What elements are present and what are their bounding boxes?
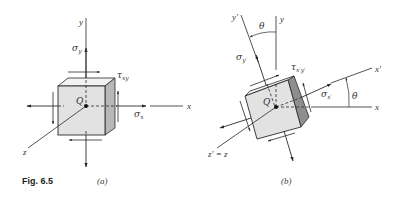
q-label-b: Q	[263, 96, 271, 107]
y-label-a: y	[78, 17, 83, 27]
x-label-a: x	[186, 101, 191, 111]
theta-label-top-b: θ	[259, 21, 265, 31]
panel-b: y′ y θ x′ x θ z′ = z Q σy′ τx′y′ σx′	[207, 12, 382, 161]
point-q-a	[84, 104, 88, 108]
figure-label: Fig. 6.5	[22, 176, 53, 186]
figure-canvas: y x z Q σy τxy σx	[0, 0, 398, 209]
sigma-y-label-a: σy	[72, 43, 82, 55]
tau-x-prime-y-prime-label-b: τx′y′	[291, 62, 306, 74]
q-label-a: Q	[76, 95, 84, 106]
z-label-a: z	[22, 147, 27, 157]
theta-label-right-b: θ	[352, 91, 358, 101]
caption-a: (a)	[97, 176, 108, 186]
cube-side-face-a	[105, 78, 115, 135]
panel-a: y x z Q σy τxy σx	[22, 17, 191, 167]
y-prime-label-b: y′	[231, 12, 239, 22]
x-prime-label-b: x′	[374, 64, 382, 74]
z-label-b: z′ = z	[207, 149, 228, 159]
point-q-b	[274, 105, 278, 109]
caption-b: (b)	[281, 176, 292, 186]
cube-front-face-a	[58, 86, 105, 135]
y-prime-axis-b	[241, 15, 258, 62]
tau-xy-label-a: τxy	[117, 70, 129, 82]
theta-arc-right-b	[346, 78, 349, 107]
y-label-b: y	[279, 14, 284, 24]
x-label-b: x	[374, 102, 379, 112]
theta-arc-top-b	[250, 32, 276, 37]
x-prime-axis-b	[331, 68, 372, 83]
sigma-x-prime-label-b: σx′	[321, 89, 333, 100]
sigma-y-prime-label-b: σy′	[236, 52, 248, 64]
sigma-x-label-a: σx	[134, 109, 144, 120]
